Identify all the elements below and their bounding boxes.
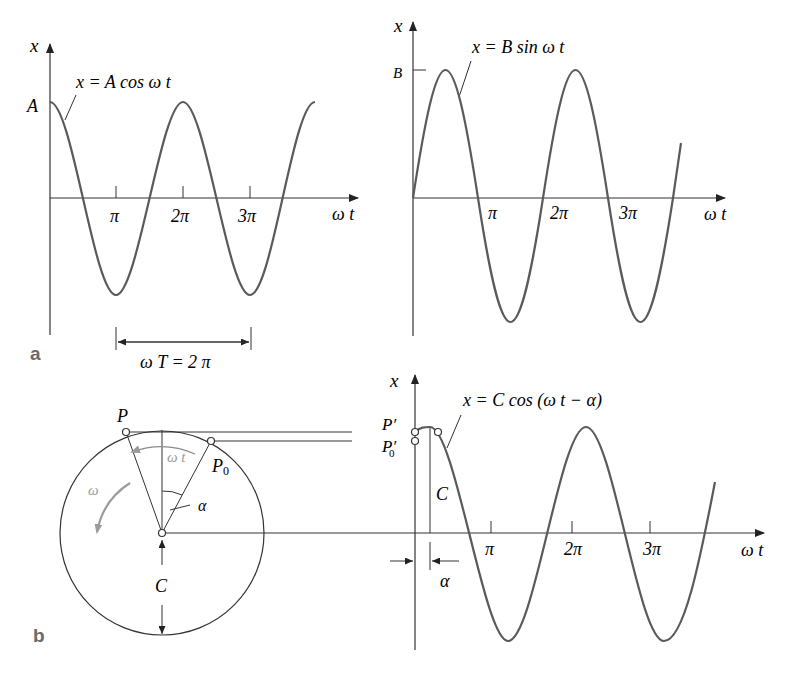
sine-curve bbox=[413, 70, 681, 322]
y-axis-label: x bbox=[389, 370, 399, 391]
point-p0-prime-label: P′0 bbox=[381, 437, 396, 459]
x-axis-label: ω t bbox=[741, 540, 764, 560]
center-point-marker bbox=[159, 530, 166, 537]
point-p0-prime-marker bbox=[412, 438, 419, 445]
omega-t-label: ω t bbox=[167, 449, 186, 465]
curve-start-marker bbox=[435, 429, 442, 436]
phase-shifted-cosine-curve bbox=[415, 427, 715, 641]
tick-label-2pi: 2π bbox=[171, 206, 190, 226]
panel-b-phasor-circle: ω t α ω C P P0 b bbox=[33, 406, 415, 646]
tick-label-pi: π bbox=[488, 203, 498, 223]
equation-label: x = A cos ω t bbox=[75, 72, 172, 92]
tick-label-2pi: 2π bbox=[550, 203, 569, 223]
amplitude-label: B bbox=[393, 65, 402, 81]
equation-leader-line bbox=[447, 415, 461, 448]
point-p0-marker bbox=[208, 438, 215, 445]
equation-leader-line bbox=[459, 61, 471, 97]
tick-label-3pi: 3π bbox=[642, 539, 662, 559]
tick-label-2pi: 2π bbox=[564, 539, 583, 559]
tick-label-3pi: 3π bbox=[618, 203, 638, 223]
omega-t-arc-arrow bbox=[132, 447, 195, 454]
omega-label: ω bbox=[88, 482, 99, 498]
radius-label: C bbox=[155, 576, 168, 596]
panel-a-cosine-graph: x ω t A x = A cos ω t π 2π 3π ω T = 2 π … bbox=[26, 35, 358, 372]
y-axis-label: x bbox=[393, 15, 403, 36]
x-axis-label: ω t bbox=[332, 204, 355, 224]
phasor-figure: x ω t A x = A cos ω t π 2π 3π ω T = 2 π … bbox=[0, 0, 793, 679]
tick-label-3pi: 3π bbox=[237, 206, 257, 226]
tick-label-pi: π bbox=[485, 539, 495, 559]
equation-leader-line bbox=[65, 95, 76, 120]
amplitude-label: C bbox=[436, 484, 449, 504]
panel-label-a: a bbox=[30, 343, 41, 364]
x-axis-label: ω t bbox=[704, 204, 727, 224]
point-p-prime-label: P′ bbox=[381, 415, 396, 434]
phase-label: α bbox=[440, 571, 450, 591]
point-p-prime-marker bbox=[412, 429, 419, 436]
period-label: ω T = 2 π bbox=[140, 352, 212, 372]
alpha-label: α bbox=[198, 497, 207, 514]
y-axis-label: x bbox=[29, 35, 39, 56]
point-p-marker bbox=[123, 429, 130, 436]
point-p0-label: P0 bbox=[211, 456, 229, 478]
point-p-label: P bbox=[116, 406, 128, 426]
alpha-leader-line bbox=[170, 505, 190, 510]
equation-label: x = B sin ω t bbox=[471, 37, 565, 57]
panel-b-phase-shifted-graph: x ω t x = C cos (ω t − α) π 2π 3π C α P′… bbox=[381, 370, 764, 650]
panel-label-b: b bbox=[33, 625, 45, 646]
equation-label: x = C cos (ω t − α) bbox=[462, 390, 602, 411]
amplitude-label: A bbox=[26, 96, 39, 116]
tick-label-pi: π bbox=[110, 206, 120, 226]
angular-velocity-arrow bbox=[97, 483, 130, 532]
panel-a-sine-graph: x ω t B x = B sin ω t π 2π 3π bbox=[393, 15, 727, 336]
alpha-arc bbox=[162, 491, 182, 495]
